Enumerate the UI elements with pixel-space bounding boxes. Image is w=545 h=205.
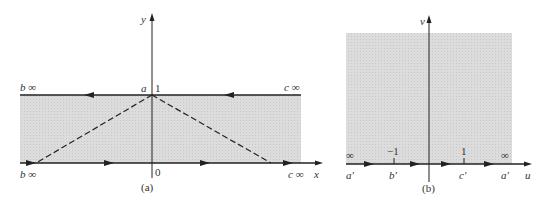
- figure-a: y a 1 b ∞ c ∞ b ∞ 0 c ∞ x (a): [20, 13, 323, 194]
- a-prime-right-label: a′: [501, 169, 510, 181]
- figure-b: v ∞ −1 1 ∞ a′ b′ c′ a′ u (b): [346, 15, 532, 195]
- y-axis-arrow-icon: [150, 13, 155, 21]
- y-axis-label: y: [140, 13, 146, 25]
- x-axis-label: x: [313, 168, 319, 180]
- a-prime-left-label: a′: [346, 169, 355, 181]
- tick-one-label: 1: [461, 145, 467, 157]
- u-axis-arrow-icon: [524, 162, 532, 167]
- x-axis-arrow-icon: [315, 161, 323, 166]
- c-prime-label: c′: [459, 169, 467, 181]
- v-axis-arrow-icon: [427, 15, 432, 23]
- caption-a: (a): [141, 181, 154, 194]
- top-right-label: c ∞: [284, 81, 300, 93]
- bottom-left-label: b ∞: [20, 168, 36, 180]
- b-prime-label: b′: [389, 169, 398, 181]
- caption-b: (b): [422, 182, 435, 195]
- u-axis-label: u: [525, 169, 531, 181]
- point-a-label: a: [141, 82, 147, 94]
- inf-left-label: ∞: [346, 149, 354, 161]
- inf-right-label: ∞: [501, 149, 509, 161]
- tick-minus-one-label: −1: [387, 145, 399, 157]
- strip-shading: [20, 95, 301, 163]
- top-left-label: b ∞: [20, 81, 36, 93]
- one-label: 1: [155, 82, 161, 94]
- diagram-canvas: y a 1 b ∞ c ∞ b ∞ 0 c ∞ x (a) v ∞ −1 1 ∞…: [0, 0, 545, 205]
- bottom-right-label: c ∞: [288, 168, 304, 180]
- v-axis-label: v: [420, 15, 425, 27]
- origin-label: 0: [155, 166, 161, 178]
